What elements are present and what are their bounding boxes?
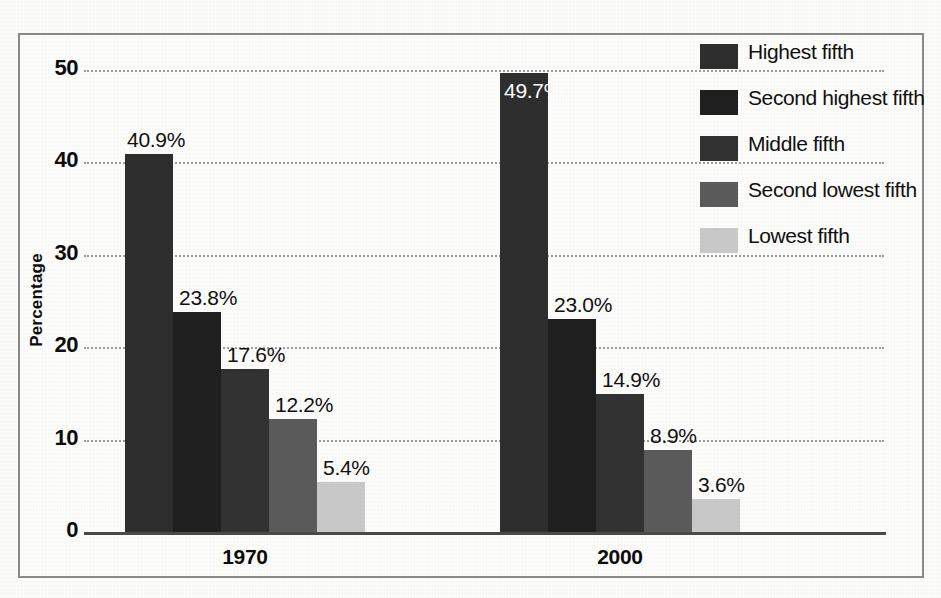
plot-area: 50403020100 Percentage 40.9%23.8%17.6%12…	[0, 0, 941, 598]
bar-1970-highest-fifth	[125, 154, 173, 532]
bar-value-label: 17.6%	[227, 343, 285, 367]
legend-swatch-icon	[700, 136, 738, 161]
chart-page: 50403020100 Percentage 40.9%23.8%17.6%12…	[0, 0, 941, 598]
y-tick-label-40: 40	[26, 147, 78, 173]
y-tick-label-50: 50	[26, 55, 78, 81]
bar-2000-highest-fifth	[500, 73, 548, 532]
gridline-40	[84, 162, 884, 164]
x-group-label-2000: 2000	[500, 545, 740, 569]
legend-item-label: Second highest fifth	[748, 86, 924, 110]
legend-swatch-icon	[700, 44, 738, 69]
legend-item-label: Middle fifth	[748, 132, 845, 156]
bar-value-label: 8.9%	[650, 424, 697, 448]
bar-value-label: 23.0%	[554, 293, 612, 317]
legend-swatch-icon	[700, 182, 738, 207]
bar-2000-middle-fifth	[596, 394, 644, 532]
gridline-50	[84, 70, 884, 72]
bar-2000-second-lowest-fifth	[644, 450, 692, 532]
bar-1970-second-highest-fifth	[173, 312, 221, 532]
gridline-30	[84, 255, 884, 257]
bar-2000-lowest-fifth	[692, 499, 740, 532]
legend-item-label: Highest fifth	[748, 40, 854, 64]
bar-1970-second-lowest-fifth	[269, 419, 317, 532]
bar-value-label: 23.8%	[179, 286, 237, 310]
bar-value-label: 49.7%	[504, 79, 562, 103]
bar-1970-middle-fifth	[221, 369, 269, 532]
bar-value-label: 14.9%	[602, 368, 660, 392]
bar-value-label: 5.4%	[323, 456, 370, 480]
bar-value-label: 12.2%	[275, 393, 333, 417]
y-tick-label-0: 0	[26, 517, 78, 543]
x-group-label-1970: 1970	[125, 545, 365, 569]
x-axis-line	[84, 532, 886, 535]
legend-swatch-icon	[700, 90, 738, 115]
y-axis-title: Percentage	[27, 230, 47, 370]
bar-1970-lowest-fifth	[317, 482, 365, 532]
legend-item-label: Lowest fifth	[748, 224, 849, 248]
legend-item-label: Second lowest fifth	[748, 178, 917, 202]
bar-2000-second-highest-fifth	[548, 319, 596, 532]
y-tick-label-10: 10	[26, 425, 78, 451]
bar-value-label: 3.6%	[698, 473, 745, 497]
bar-value-label: 40.9%	[127, 128, 185, 152]
legend-swatch-icon	[700, 228, 738, 253]
